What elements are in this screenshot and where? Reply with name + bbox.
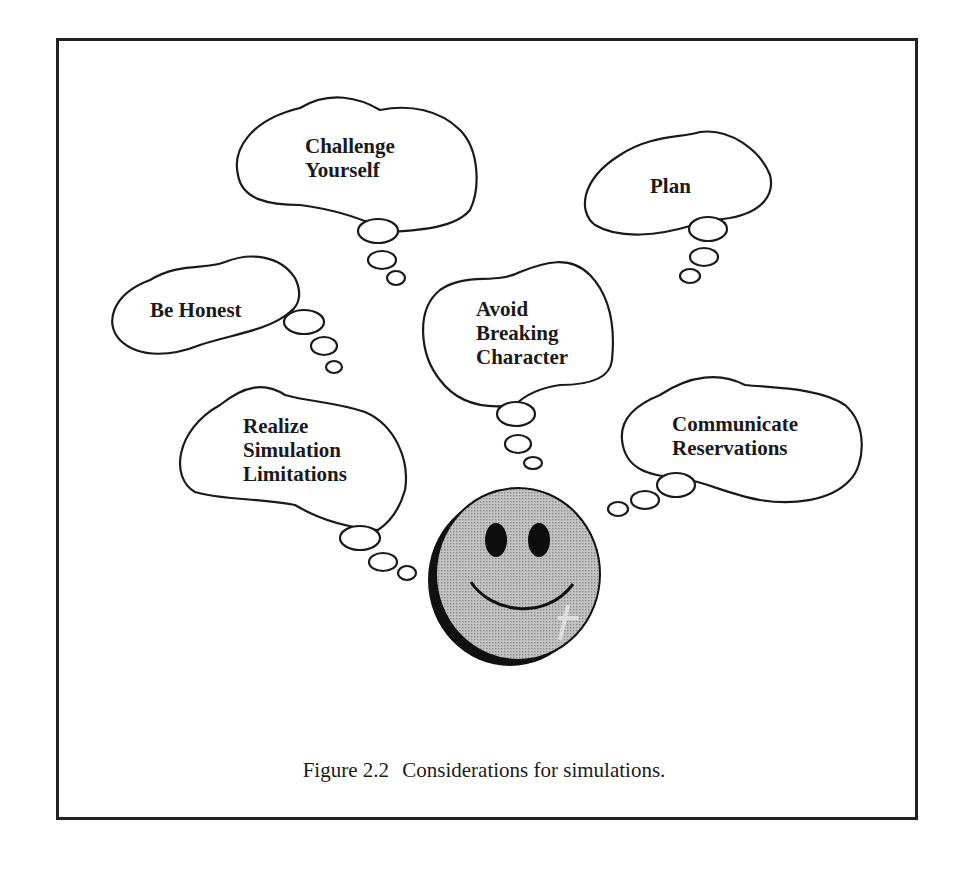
bubble-line: Communicate xyxy=(672,412,798,436)
bubble-line: Simulation xyxy=(243,438,347,462)
bubble-line: Challenge xyxy=(305,134,395,158)
bubble-line: Limitations xyxy=(243,462,347,486)
bubble-line: Reservations xyxy=(672,436,798,460)
smiley-face-icon xyxy=(428,488,600,666)
bubble-line: Realize xyxy=(243,414,347,438)
smiley-face xyxy=(436,488,600,660)
bubble-line: Avoid xyxy=(476,297,568,321)
bubble-label-be-honest: Be Honest xyxy=(150,298,242,322)
bubble-line: Breaking xyxy=(476,321,568,345)
smiley-left-eye xyxy=(485,523,507,557)
bubble-label-plan: Plan xyxy=(650,174,691,198)
diagram-canvas xyxy=(0,0,968,870)
bubble-label-challenge-yourself: Challenge Yourself xyxy=(305,134,395,182)
cloud-plan xyxy=(585,132,771,283)
bubble-label-communicate-reservations: Communicate Reservations xyxy=(672,412,798,460)
cloud-challenge-yourself xyxy=(237,97,477,285)
bubble-label-realize-simulation-limitations: Realize Simulation Limitations xyxy=(243,414,347,486)
bubble-label-avoid-breaking-character: Avoid Breaking Character xyxy=(476,297,568,369)
figure-caption: Figure 2.2 Considerations for simulation… xyxy=(0,758,968,783)
smiley-right-eye xyxy=(528,523,550,557)
figure-caption-text: Considerations for simulations. xyxy=(402,758,665,782)
bubble-line: Yourself xyxy=(305,158,395,182)
bubble-line: Character xyxy=(476,345,568,369)
figure-number: Figure 2.2 xyxy=(303,758,389,782)
bubble-line: Be Honest xyxy=(150,298,242,322)
bubble-line: Plan xyxy=(650,174,691,198)
